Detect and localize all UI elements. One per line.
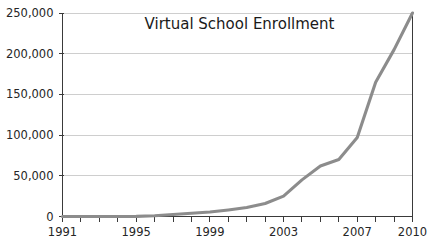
y-axis-tick-label: 250,000 <box>6 6 54 20</box>
y-axis-tick-label: 100,000 <box>6 128 54 142</box>
chart-title: Virtual School Enrollment <box>145 15 335 33</box>
x-axis-tick-label: 1991 <box>48 225 77 239</box>
x-axis-labels: 199119951999200320072010 <box>48 225 427 239</box>
line-chart: 050,000100,000150,000200,000250,000 1991… <box>0 0 431 252</box>
y-axis-tick-label: 200,000 <box>6 47 54 61</box>
chart-container: 050,000100,000150,000200,000250,000 1991… <box>0 0 431 252</box>
y-axis-tick-label: 0 <box>46 210 53 224</box>
x-axis-tick-label: 2007 <box>343 225 372 239</box>
x-axis-tick-label: 1999 <box>195 225 224 239</box>
gridlines <box>63 13 413 176</box>
data-series-line <box>63 13 413 217</box>
x-axis-tick-label: 2010 <box>398 225 427 239</box>
y-axis-tick-label: 50,000 <box>13 169 53 183</box>
y-axis-tick-label: 150,000 <box>6 87 54 101</box>
x-axis-tick-label: 2003 <box>269 225 298 239</box>
x-axis-tick-label: 1995 <box>122 225 151 239</box>
y-axis-labels: 050,000100,000150,000200,000250,000 <box>6 6 54 224</box>
